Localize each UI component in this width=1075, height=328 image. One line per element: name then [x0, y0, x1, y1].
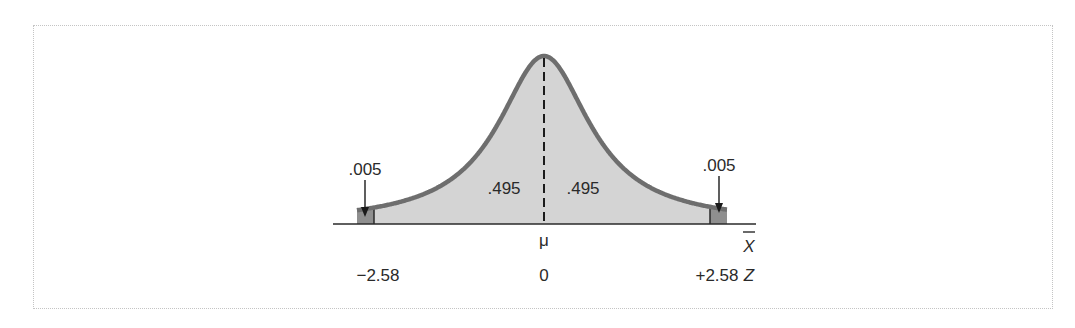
- left-center-area-label: .495: [487, 179, 520, 198]
- z-value-left: −2.58: [356, 266, 399, 285]
- z-axis-symbol: Z: [743, 266, 755, 285]
- left-tail-area-label: .005: [348, 160, 381, 179]
- z-value-center: 0: [539, 266, 548, 285]
- mean-label: μ: [539, 231, 549, 250]
- right-center-area-label: .495: [566, 179, 599, 198]
- z-value-right: +2.58: [695, 266, 738, 285]
- x-bar-axis-symbol: X: [742, 237, 755, 256]
- right-tail-area-label: .005: [702, 156, 735, 175]
- normal-curve-diagram: .005 .005 .495 .495 μ X −2.58 0 +2.58 Z: [0, 0, 1075, 328]
